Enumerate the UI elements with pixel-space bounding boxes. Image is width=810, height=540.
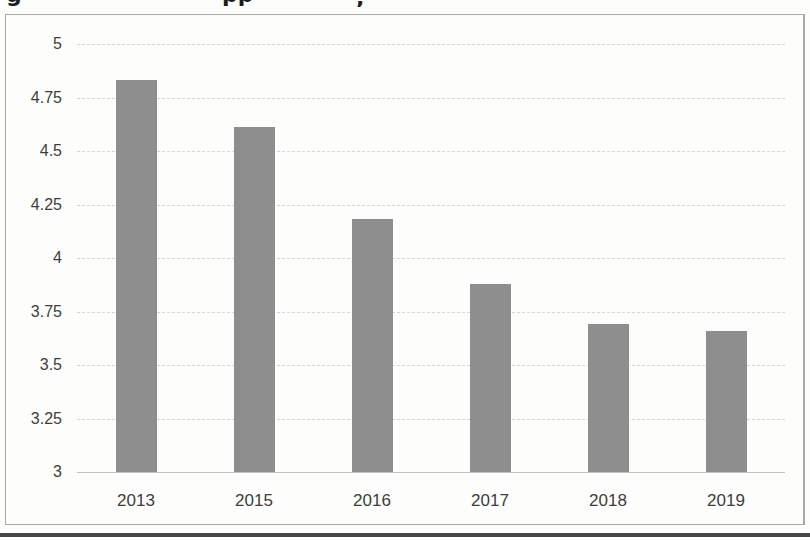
x-axis-line bbox=[77, 472, 785, 473]
y-axis-tick-label: 4 bbox=[0, 247, 62, 269]
x-axis-tick-label: 2017 bbox=[445, 490, 535, 512]
y-axis-tick-label: 4.75 bbox=[0, 87, 62, 109]
bar-2017 bbox=[470, 284, 511, 472]
page-bottom-rule bbox=[0, 533, 810, 537]
bar-2016 bbox=[352, 219, 393, 472]
gridline-4 bbox=[77, 258, 785, 259]
gridline-4.25 bbox=[77, 205, 785, 206]
x-axis-tick-label: 2013 bbox=[91, 490, 181, 512]
y-axis-tick-label: 3.5 bbox=[0, 354, 62, 376]
bar-2019 bbox=[706, 331, 747, 472]
x-axis-tick-label: 2015 bbox=[209, 490, 299, 512]
y-axis-tick-label: 3.75 bbox=[0, 301, 62, 323]
bar-2015 bbox=[234, 127, 275, 472]
y-axis-tick-label: 5 bbox=[0, 33, 62, 55]
y-axis-tick-label: 4.25 bbox=[0, 194, 62, 216]
chart-layer: 54.754.54.2543.753.53.253201320152016201… bbox=[0, 0, 810, 540]
bar-2013 bbox=[116, 80, 157, 472]
gridline-4.75 bbox=[77, 98, 785, 99]
gridline-3.5 bbox=[77, 365, 785, 366]
gridline-3.25 bbox=[77, 419, 785, 420]
x-axis-tick-label: 2019 bbox=[681, 490, 771, 512]
x-axis-tick-label: 2016 bbox=[327, 490, 417, 512]
y-axis-tick-label: 3 bbox=[0, 461, 62, 483]
gridline-3.75 bbox=[77, 312, 785, 313]
gridline-4.5 bbox=[77, 151, 785, 152]
y-axis-tick-label: 3.25 bbox=[0, 408, 62, 430]
x-axis-tick-label: 2018 bbox=[563, 490, 653, 512]
bar-2018 bbox=[588, 324, 629, 472]
y-axis-tick-label: 4.5 bbox=[0, 140, 62, 162]
gridline-5 bbox=[77, 44, 785, 45]
scanned-chart-page: g pp , 54.754.54.2543.753.53.25320132015… bbox=[0, 0, 810, 540]
